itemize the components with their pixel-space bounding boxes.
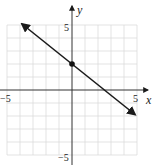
x-axis-label: x — [145, 93, 152, 107]
y-intercept-point — [69, 61, 75, 67]
x-tick-min: −5 — [0, 93, 11, 104]
coordinate-plane: x y −5 5 5 −5 — [0, 0, 156, 165]
graph-line — [22, 24, 135, 115]
y-tick-min: −5 — [58, 152, 69, 163]
y-axis-label: y — [76, 3, 83, 17]
x-tick-max: 5 — [133, 93, 138, 104]
y-tick-max: 5 — [64, 22, 69, 33]
